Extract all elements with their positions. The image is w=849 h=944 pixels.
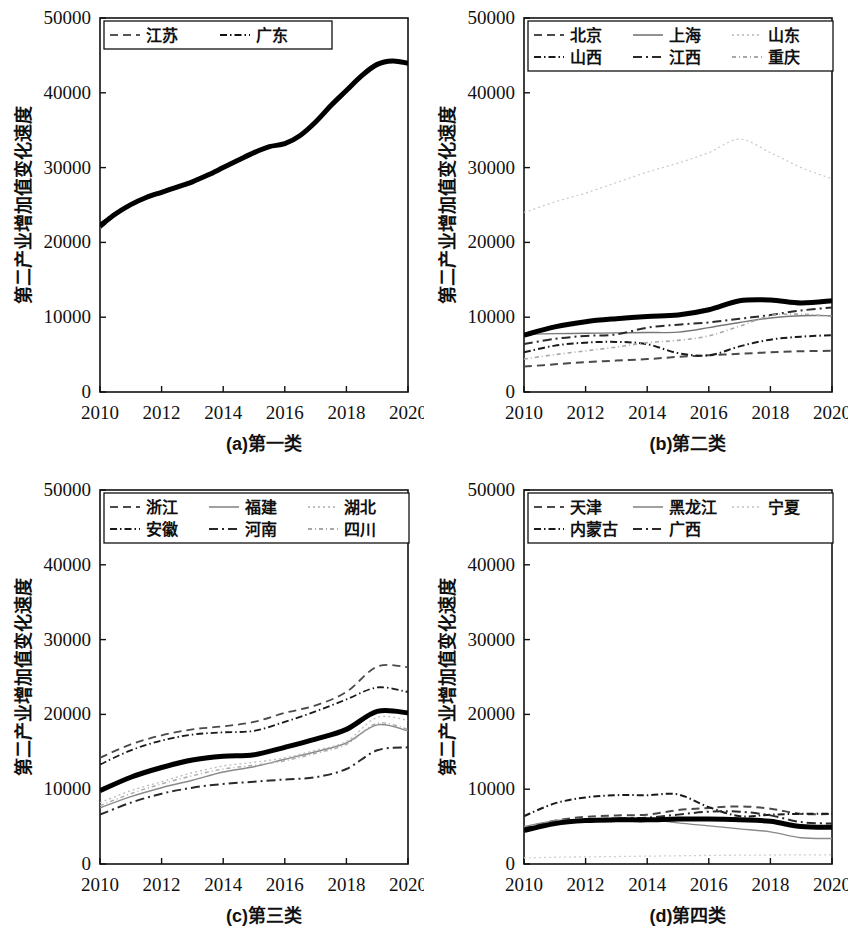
x-tick-label: 2014	[628, 874, 667, 895]
x-tick-label: 2012	[567, 402, 605, 423]
series-line-浙江	[100, 665, 408, 758]
chart-d: 0100002000030000400005000020102012201420…	[424, 472, 848, 944]
x-tick-label: 2010	[81, 402, 119, 423]
legend-label-浙江[interactable]: 浙江	[146, 498, 178, 516]
panel-caption-c: (c)第三类	[226, 905, 303, 926]
x-tick-label: 2016	[690, 874, 728, 895]
y-tick-label: 0	[82, 853, 92, 874]
series-line-类中心	[524, 300, 832, 336]
series-line-四川	[100, 723, 408, 806]
legend-label-江西[interactable]: 江西	[669, 49, 701, 66]
y-tick-label: 30000	[468, 157, 516, 178]
x-tick-label: 2018	[327, 874, 365, 895]
y-tick-label: 10000	[44, 778, 92, 799]
series-line-江苏	[100, 61, 408, 229]
plot-frame	[100, 490, 408, 864]
legend-label-山东[interactable]: 山东	[768, 26, 800, 44]
y-axis-title: 第二产业增加值变化速度	[437, 577, 458, 776]
y-axis-title: 第二产业增加值变化速度	[437, 105, 458, 304]
y-tick-label: 10000	[468, 778, 516, 799]
panel-d: 0100002000030000400005000020102012201420…	[424, 472, 849, 944]
series-line-福建	[100, 725, 408, 808]
y-tick-label: 10000	[44, 306, 92, 327]
y-tick-label: 20000	[44, 231, 92, 252]
legend-label-宁夏[interactable]: 宁夏	[768, 498, 801, 516]
series-group	[524, 794, 832, 858]
y-tick-label: 10000	[468, 306, 516, 327]
x-tick-label: 2016	[690, 402, 728, 423]
chart-c: 0100002000030000400005000020102012201420…	[0, 472, 424, 944]
x-tick-label: 2018	[751, 874, 789, 895]
panel-b: 0100002000030000400005000020102012201420…	[424, 0, 849, 472]
y-tick-label: 0	[506, 381, 516, 402]
legend-label-北京[interactable]: 北京	[570, 26, 602, 44]
legend-label-黑龙江[interactable]: 黑龙江	[669, 498, 717, 516]
legend-label-广东[interactable]: 广东	[256, 26, 288, 44]
chart-a: 0100002000030000400005000020102012201420…	[0, 0, 424, 472]
series-group	[524, 139, 832, 366]
series-line-类中心	[524, 819, 832, 830]
legend-label-内蒙古[interactable]: 内蒙古	[570, 520, 618, 538]
y-tick-label: 20000	[468, 231, 516, 252]
panel-a: 0100002000030000400005000020102012201420…	[0, 0, 424, 472]
y-tick-label: 50000	[468, 7, 516, 28]
legend-label-上海[interactable]: 上海	[669, 26, 701, 44]
x-tick-label: 2010	[81, 874, 119, 895]
panel-caption-a: (a)第一类	[226, 433, 303, 454]
y-tick-label: 0	[506, 853, 516, 874]
y-tick-label: 40000	[44, 82, 92, 103]
x-tick-label: 2020	[389, 402, 424, 423]
x-tick-label: 2012	[143, 874, 181, 895]
y-tick-label: 30000	[44, 629, 92, 650]
series-group	[100, 61, 408, 229]
x-tick-label: 2020	[389, 874, 424, 895]
y-tick-label: 0	[82, 381, 92, 402]
figure-grid: 0100002000030000400005000020102012201420…	[0, 0, 849, 944]
series-line-山东	[524, 139, 832, 212]
y-tick-label: 20000	[468, 703, 516, 724]
plot-frame	[524, 18, 832, 392]
legend-label-山西[interactable]: 山西	[570, 49, 602, 66]
x-tick-label: 2010	[505, 402, 543, 423]
x-tick-label: 2020	[813, 874, 848, 895]
panel-c: 0100002000030000400005000020102012201420…	[0, 472, 424, 944]
panel-caption-d: (d)第四类	[650, 905, 728, 926]
panel-caption-b: (b)第二类	[650, 433, 728, 454]
x-tick-label: 2016	[266, 874, 304, 895]
y-tick-label: 50000	[44, 479, 92, 500]
y-tick-label: 20000	[44, 703, 92, 724]
chart-b: 0100002000030000400005000020102012201420…	[424, 0, 848, 472]
legend-label-四川[interactable]: 四川	[344, 521, 376, 538]
x-tick-label: 2020	[813, 402, 848, 423]
series-line-宁夏	[524, 855, 832, 858]
legend-label-河南[interactable]: 河南	[245, 520, 277, 538]
y-tick-label: 50000	[44, 7, 92, 28]
x-tick-label: 2012	[567, 874, 605, 895]
legend-label-江苏[interactable]: 江苏	[146, 26, 178, 44]
x-tick-label: 2014	[628, 402, 667, 423]
y-tick-label: 30000	[44, 157, 92, 178]
x-tick-label: 2014	[204, 402, 243, 423]
legend-label-安徽[interactable]: 安徽	[146, 520, 179, 538]
y-axis-title: 第二产业增加值变化速度	[13, 105, 34, 304]
y-tick-label: 40000	[468, 82, 516, 103]
x-tick-label: 2018	[751, 402, 789, 423]
legend-label-广西[interactable]: 广西	[669, 520, 701, 538]
x-tick-label: 2014	[204, 874, 243, 895]
legend-label-湖北[interactable]: 湖北	[344, 499, 376, 516]
x-tick-label: 2012	[143, 402, 181, 423]
y-tick-label: 30000	[468, 629, 516, 650]
x-tick-label: 2018	[327, 402, 365, 423]
y-tick-label: 50000	[468, 479, 516, 500]
series-line-类中心	[100, 61, 408, 226]
series-line-内蒙古	[524, 794, 832, 817]
legend-label-天津[interactable]: 天津	[570, 499, 602, 516]
y-tick-label: 40000	[468, 554, 516, 575]
y-axis-title: 第二产业增加值变化速度	[13, 577, 34, 776]
legend-label-福建[interactable]: 福建	[244, 498, 277, 516]
y-tick-label: 40000	[44, 554, 92, 575]
plot-frame	[524, 490, 832, 864]
x-tick-label: 2016	[266, 402, 304, 423]
x-tick-label: 2010	[505, 874, 543, 895]
legend-label-重庆[interactable]: 重庆	[768, 48, 800, 66]
